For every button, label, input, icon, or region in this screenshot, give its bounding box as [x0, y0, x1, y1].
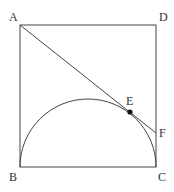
label-f: F	[159, 126, 166, 140]
semicircle-bc	[20, 99, 156, 167]
label-b: B	[9, 170, 17, 184]
tangent-line-af	[20, 25, 156, 133]
label-c: C	[158, 170, 166, 184]
label-d: D	[159, 10, 168, 24]
square-abcd	[20, 25, 156, 167]
label-e: E	[126, 94, 133, 108]
point-e-dot	[127, 109, 132, 114]
label-a: A	[9, 10, 18, 24]
geometry-diagram: A D B C E F	[0, 0, 174, 192]
